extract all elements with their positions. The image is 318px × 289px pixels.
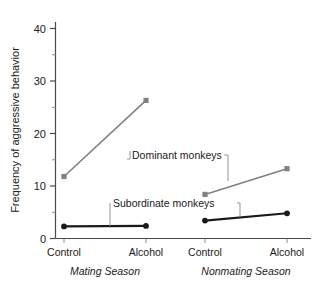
- dominant-monkeys-label: Dominant monkeys: [132, 149, 222, 161]
- x-category-label-nonmating-alcohol: Alcohol: [270, 246, 304, 258]
- subordinate-monkeys-label: Subordinate monkeys: [113, 197, 215, 209]
- x-category-label-mating-alcohol: Alcohol: [129, 246, 163, 258]
- subordinate-line-mating: [64, 226, 146, 227]
- x-category-label-nonmating-control: Control: [188, 246, 222, 258]
- y-axis-title: Frequency of aggressive behavior: [9, 47, 21, 213]
- y-tick-label-30: 30: [34, 75, 46, 87]
- dominant-marker-nonmating-alcohol: [284, 166, 289, 171]
- y-tick-label-20: 20: [34, 128, 46, 140]
- subordinate-marker-mating-control: [61, 224, 67, 230]
- dominant-marker-mating-alcohol: [143, 98, 148, 103]
- y-tick-label-0: 0: [40, 233, 46, 245]
- dominant-marker-mating-control: [61, 174, 66, 179]
- x-group-label-mating-season: Mating Season: [70, 265, 140, 277]
- x-category-label-mating-control: Control: [47, 246, 81, 258]
- x-group-label-nonmating-season: Nonmating Season: [201, 265, 290, 277]
- chart-container: 40 30 20 10 0 Frequency of aggressive be…: [0, 0, 318, 289]
- aggression-line-chart: 40 30 20 10 0 Frequency of aggressive be…: [0, 0, 318, 289]
- y-tick-label-40: 40: [34, 23, 46, 35]
- subordinate-marker-mating-alcohol: [143, 223, 149, 229]
- subordinate-marker-nonmating-alcohol: [284, 210, 290, 216]
- subordinate-marker-nonmating-control: [202, 218, 208, 224]
- y-tick-label-10: 10: [34, 180, 46, 192]
